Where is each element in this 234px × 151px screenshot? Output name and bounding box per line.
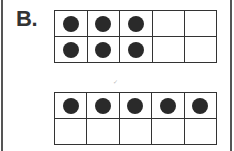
ten-frame-cell [55, 93, 87, 119]
ten-frame-cell [152, 37, 184, 63]
counter-dot-icon [127, 98, 143, 114]
counter-dot-icon [192, 98, 208, 114]
ten-frame-cell [87, 93, 119, 119]
ten-frame-cell [120, 37, 153, 63]
ten-frame-cell [184, 37, 216, 63]
ten-frame-row [55, 37, 217, 63]
counter-dot-icon [95, 98, 111, 114]
ten-frame-row [55, 119, 217, 145]
right-border [230, 0, 232, 151]
counter-dot-icon [128, 16, 144, 32]
ten-frame-cell [119, 93, 151, 119]
left-border [1, 0, 3, 151]
ten-frame-cell [184, 119, 216, 145]
ten-frame-cell [152, 11, 184, 37]
ten-frame-cell [152, 119, 184, 145]
ten-frame-cell [87, 119, 119, 145]
ten-frame-1 [54, 10, 217, 63]
stray-mark: ✓ [113, 78, 118, 85]
ten-frame-cell [55, 119, 87, 145]
counter-dot-icon [160, 98, 176, 114]
ten-frame-cell [55, 37, 88, 63]
ten-frame-cell [184, 93, 216, 119]
counter-dot-icon [63, 42, 79, 58]
counter-dot-icon [128, 42, 144, 58]
ten-frame-cell [184, 11, 216, 37]
counter-dot-icon [63, 98, 79, 114]
ten-frame-row [55, 11, 217, 37]
ten-frame-cell [87, 11, 120, 37]
ten-frame-cell [119, 119, 151, 145]
ten-frame-row [55, 93, 217, 119]
problem-label: B. [16, 6, 37, 32]
ten-frame-cell [87, 37, 120, 63]
ten-frame-cell [152, 93, 184, 119]
counter-dot-icon [63, 16, 79, 32]
ten-frame-cell [120, 11, 153, 37]
ten-frame-cell [55, 11, 88, 37]
counter-dot-icon [95, 42, 111, 58]
counter-dot-icon [95, 16, 111, 32]
ten-frame-2 [54, 92, 217, 145]
